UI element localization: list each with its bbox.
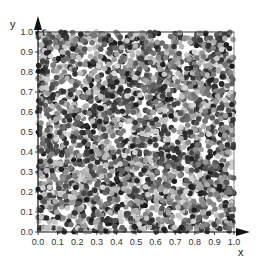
y-tick-label: 0.2 [20,187,33,197]
y-tick-label: 0.0 [20,227,33,237]
y-axis-ticks: 0.00.10.20.30.40.50.60.70.80.91.0 [20,27,38,237]
x-tick-label: 0.8 [189,237,202,247]
x-tick-label: 0.4 [110,237,123,247]
y-tick-label: 1.0 [20,27,33,37]
y-axis-arrow-icon [34,16,42,30]
y-tick-label: 0.7 [20,87,33,97]
x-tick-label: 0.1 [51,237,64,247]
y-tick-label: 0.8 [20,67,33,77]
y-tick-label: 0.9 [20,47,33,57]
y-tick-label: 0.3 [20,167,33,177]
x-tick-label: 0.3 [91,237,104,247]
x-tick-label: 0.5 [130,237,143,247]
y-tick-label: 0.4 [20,147,33,157]
x-tick-label: 0.6 [149,237,162,247]
y-axis-label: y [10,18,16,30]
y-tick-label: 0.1 [20,207,33,217]
y-tick-label: 0.6 [20,107,33,117]
scatter-chart: 0.00.10.20.30.40.50.60.70.80.91.0 0.00.1… [0,0,263,268]
x-tick-label: 0.7 [169,237,182,247]
x-tick-label: 0.2 [71,237,84,247]
x-tick-label: 0.0 [32,237,45,247]
scatter-points [35,29,236,235]
x-tick-label: 0.9 [208,237,221,247]
x-axis-arrow-icon [236,228,250,236]
x-axis-label: x [238,246,244,258]
y-tick-label: 0.5 [20,127,33,137]
